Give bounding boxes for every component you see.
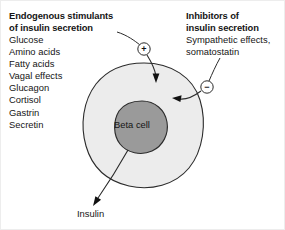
insulin-secretion-diagram: Endogenous stimulants of insulin secreti… xyxy=(0,0,285,230)
inhibitors-heading-line2: insulin secretion xyxy=(186,22,259,34)
stimulants-heading-line1: Endogenous stimulants xyxy=(9,10,113,22)
list-item: Secretin xyxy=(9,119,62,131)
insulin-output-arrowhead xyxy=(93,196,101,206)
list-item: Fatty acids xyxy=(9,58,62,70)
inhibitors-list: Sympathetic effects, somatostatin xyxy=(186,34,270,58)
minus-sign-icon: − xyxy=(201,82,213,92)
stimulants-list: Glucose Amino acids Fatty acids Vagal ef… xyxy=(9,34,62,131)
stimulant-leader-line xyxy=(117,32,140,45)
beta-cell-label: Beta cell xyxy=(114,119,150,131)
list-item: Glucagon xyxy=(9,82,62,94)
list-item: Cortisol xyxy=(9,94,62,106)
inhibitors-heading: Inhibitors of insulin secretion xyxy=(186,10,259,34)
inhibitor-leader-line xyxy=(209,58,220,81)
list-item: Gastrin xyxy=(9,107,62,119)
list-item: Glucose xyxy=(9,34,62,46)
inhibitors-heading-line1: Inhibitors of xyxy=(186,10,259,22)
stimulants-heading: Endogenous stimulants of insulin secreti… xyxy=(9,10,113,34)
list-item: somatostatin xyxy=(186,46,270,58)
stimulants-heading-line2: of insulin secretion xyxy=(9,22,113,34)
insulin-label: Insulin xyxy=(77,208,104,220)
list-item: Sympathetic effects, xyxy=(186,34,270,46)
plus-sign-icon: + xyxy=(138,44,150,54)
list-item: Vagal effects xyxy=(9,70,62,82)
list-item: Amino acids xyxy=(9,46,62,58)
